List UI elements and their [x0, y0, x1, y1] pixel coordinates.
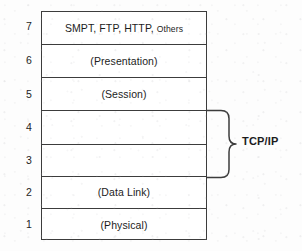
layer-label-1: (Physical) — [100, 220, 147, 231]
layer-row-2: (Data Link) — [42, 177, 206, 209]
layer-stack: SMPT, FTP, HTTP, Others (Presentation) (… — [41, 11, 207, 240]
layer-row-1: (Physical) — [42, 209, 206, 241]
layer-row-5: (Session) — [42, 78, 206, 111]
layer-label-7-small-text: Others — [157, 24, 183, 34]
layer-number-3: 3 — [22, 155, 36, 166]
layer-number-4: 4 — [22, 122, 36, 133]
layer-number-5: 5 — [22, 89, 36, 100]
layer-row-7: SMPT, FTP, HTTP, Others — [42, 12, 206, 45]
layer-row-4 — [42, 111, 206, 145]
layer-number-7: 7 — [22, 21, 36, 32]
layer-number-2: 2 — [22, 187, 36, 198]
osi-layer-diagram: 7 6 5 4 3 2 1 SMPT, FTP, HTTP, Others (P… — [0, 0, 302, 251]
layer-row-6: (Presentation) — [42, 45, 206, 78]
layer-label-2: (Data Link) — [98, 187, 150, 198]
layer-number-1: 1 — [22, 219, 36, 230]
layer-label-5: (Session) — [101, 89, 146, 100]
layer-row-3 — [42, 145, 206, 177]
tcpip-brace-icon — [205, 106, 241, 182]
layer-label-7-text: SMPT, FTP, HTTP, — [65, 22, 154, 34]
layer-label-7: SMPT, FTP, HTTP, Others — [65, 23, 183, 34]
layer-label-6: (Presentation) — [90, 56, 157, 67]
tcpip-label: TCP/IP — [242, 136, 279, 147]
layer-number-6: 6 — [22, 55, 36, 66]
